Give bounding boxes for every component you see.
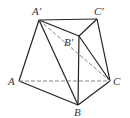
edge-B1C1	[79, 19, 97, 36]
label-C1: C′	[94, 5, 104, 17]
label-A1: A′	[31, 5, 42, 17]
edge-BC	[78, 81, 110, 105]
edge-AA1	[19, 20, 39, 81]
label-B1: B′	[64, 36, 74, 48]
label-A: A	[7, 75, 15, 87]
label-B: B	[74, 106, 81, 118]
label-C: C	[113, 75, 121, 87]
edge-A1C1	[39, 19, 97, 20]
edge-B1B	[78, 36, 79, 105]
prism-diagram: A′ C′ B′ A C B	[0, 0, 130, 118]
